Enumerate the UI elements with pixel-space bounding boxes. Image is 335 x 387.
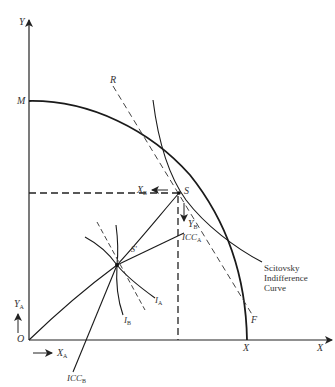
point-r-label: R: [110, 75, 116, 85]
point-f-label: F: [251, 315, 257, 325]
point-x-label: X: [243, 343, 249, 353]
contract-curve: [29, 193, 179, 340]
icc-b-line: [73, 265, 117, 372]
diagram-figure: Y X O M X S S' R F XB YB XA YA ICCA ICCB…: [0, 0, 335, 387]
scitovsky-label-line3: Curve: [264, 283, 286, 293]
icc-b-line-upper: [117, 222, 135, 265]
i-b-label: IB: [124, 315, 131, 328]
diagram-canvas: [0, 0, 335, 387]
scitovsky-label-line2: Indifference: [264, 273, 308, 283]
ya-label: YA: [14, 299, 24, 312]
icc-b-label: ICCB: [67, 373, 86, 386]
transformation-curve: [29, 101, 247, 340]
xb-label: XB: [137, 185, 147, 198]
scitovsky-label-line1: Scitovsky: [264, 263, 300, 273]
i-a-label: IA: [155, 295, 162, 308]
point-s-prime: [115, 263, 119, 267]
ray-to-s: [60, 265, 117, 295]
point-s-label: S: [184, 186, 189, 196]
point-s-prime-label: S': [131, 245, 137, 255]
point-s: [177, 191, 181, 195]
yb-label: YB: [188, 219, 198, 232]
origin-label: O: [17, 334, 24, 344]
xa-label: XA: [57, 348, 67, 361]
point-m-label: M: [17, 96, 25, 106]
scitovsky-indifference-curve: [153, 100, 262, 262]
icc-a-label: ICCA: [182, 232, 201, 245]
x-axis-label: X: [317, 343, 323, 353]
icc-a-line: [117, 233, 184, 265]
indifference-curve-a: [85, 237, 155, 298]
y-axis-label: Y: [19, 17, 25, 27]
